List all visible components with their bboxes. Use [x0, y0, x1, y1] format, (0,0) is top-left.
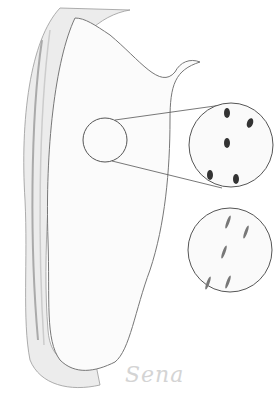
organ-sketch [0, 0, 280, 396]
lower-magnified-view [188, 208, 272, 292]
artist-signature: Sena [125, 362, 184, 387]
upper-magnified-view [189, 103, 273, 187]
illustration: Sena [0, 0, 280, 396]
